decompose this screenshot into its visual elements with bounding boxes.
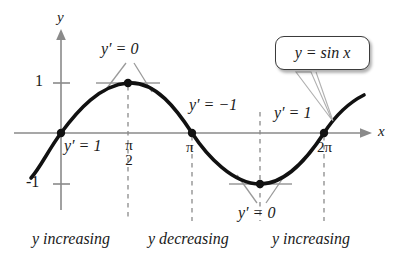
point-maximum <box>124 79 132 87</box>
x-tick-pi-over-2-numerator: π <box>120 138 138 153</box>
annotation-slope-at-pi: y′ = −1 <box>189 97 237 113</box>
sine-derivative-figure: y x 1 -1 π 2 π 2π y′ = 0 y′ = 1 y′ = −1 … <box>0 0 401 259</box>
x-tick-label-two-pi: 2π <box>317 140 332 155</box>
interval-label-increasing-first: y increasing <box>32 231 110 247</box>
y-axis-label: y <box>57 10 64 25</box>
x-tick-label-pi: π <box>186 140 194 155</box>
annotation-slope-at-origin: y′ = 1 <box>64 138 101 154</box>
point-origin <box>57 129 65 137</box>
y-tick-label-one: 1 <box>35 73 43 89</box>
interval-label-increasing-second: y increasing <box>272 231 350 247</box>
y-tick-label-negative-one: -1 <box>26 174 39 190</box>
interval-label-decreasing: y decreasing <box>148 231 229 247</box>
curve-equation-callout: y = sin x <box>275 36 370 70</box>
annotation-slope-at-max: y′ = 0 <box>101 41 138 57</box>
x-axis-label: x <box>378 124 385 139</box>
point-two-pi <box>320 129 328 137</box>
y-axis-arrowhead <box>56 29 66 40</box>
annotation-slope-at-two-pi: y′ = 1 <box>274 105 311 121</box>
x-tick-pi-over-2-denominator: 2 <box>120 153 138 168</box>
point-minimum <box>256 180 264 188</box>
annotation-slope-at-min: y′ = 0 <box>238 205 275 221</box>
x-tick-label-pi-over-2: π 2 <box>120 138 138 169</box>
curve-equation-label: y = sin x <box>295 45 351 61</box>
x-axis-arrowhead <box>360 128 372 138</box>
point-pi <box>188 129 196 137</box>
